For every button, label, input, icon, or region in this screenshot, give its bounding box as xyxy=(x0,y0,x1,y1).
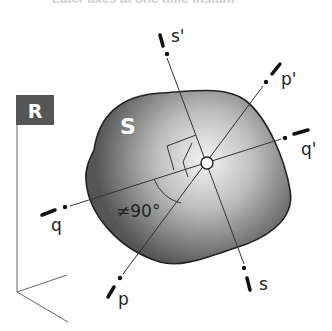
kinematics-diagram: R S s' s p' p q' q ≠90° xyxy=(0,0,332,331)
body-label: S xyxy=(120,114,136,139)
rigid-body-shape xyxy=(86,90,291,263)
axis-label-s-prime: s' xyxy=(171,26,185,46)
axis-label-s: s xyxy=(259,274,268,294)
frame-label: R xyxy=(28,100,43,122)
axis-label-p-prime: p' xyxy=(281,69,296,89)
pivot-point xyxy=(201,157,213,169)
axis-label-p: p xyxy=(118,289,129,309)
axis-label-q-prime: q' xyxy=(301,139,316,159)
angle-label: ≠90° xyxy=(116,201,160,221)
axis-label-q: q xyxy=(51,215,62,235)
reference-frame: R xyxy=(16,95,68,322)
